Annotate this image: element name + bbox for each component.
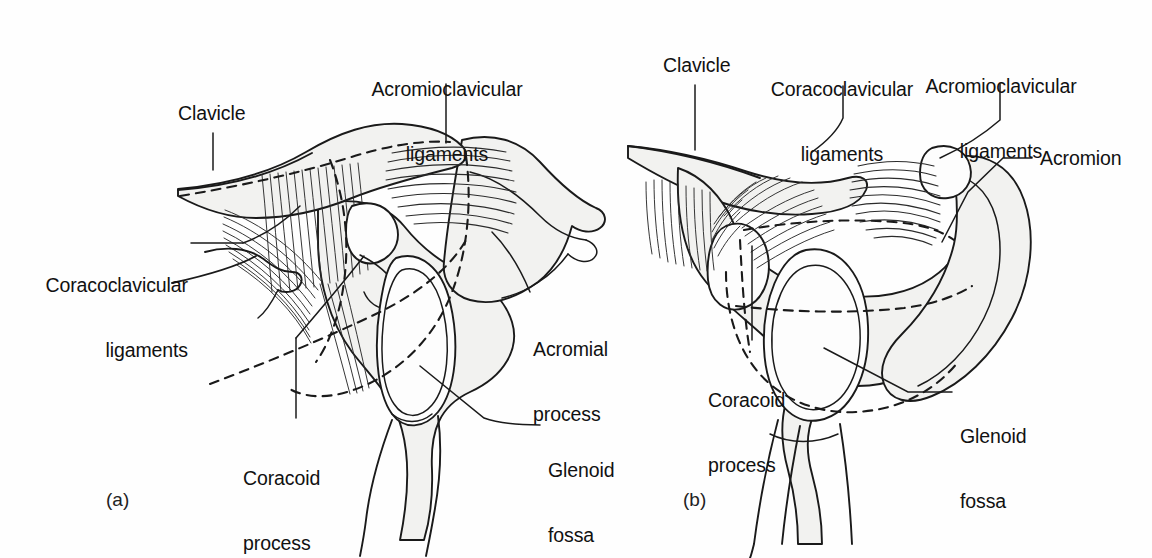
label-acromion-b: Acromion [1040, 148, 1122, 170]
coracoid-process-a [346, 203, 398, 263]
label-acromioclavicular-ligaments-b: Acromioclavicular ligaments [922, 33, 1080, 205]
label-line-1: Glenoid [960, 426, 1027, 448]
label-line-2: process [708, 455, 785, 477]
label-clavicle-b: Clavicle [663, 55, 730, 77]
label-coracoid-process-b: Coracoid process [708, 347, 785, 519]
label-line-1: Acromioclavicular [922, 76, 1080, 98]
label-line-1: Acromial [533, 339, 608, 361]
label-glenoid-fossa-a: Glenoid fossa [548, 417, 615, 558]
label-coracoclavicular-ligaments-a: Coracoclavicular ligaments [36, 232, 188, 404]
panel-tag-a: (a) [106, 489, 129, 511]
label-coracoclavicular-ligaments-b: Coracoclavicular ligaments [766, 36, 918, 208]
label-line-2: process [243, 533, 320, 555]
label-glenoid-fossa-b: Glenoid fossa [960, 383, 1027, 555]
glenoid-fossa-a [377, 256, 455, 425]
label-coracoid-process-a: Coracoid process [243, 425, 320, 558]
panel-tag-b: (b) [683, 489, 706, 511]
label-acromioclavicular-ligaments-a: Acromioclavicular ligaments [368, 36, 526, 208]
label-line-2: ligaments [36, 340, 188, 362]
anatomy-figure: .o { fill:none; stroke:#1a1a1a; stroke-w… [0, 0, 1152, 558]
label-line-1: Glenoid [548, 460, 615, 482]
label-line-1: Coracoid [708, 390, 785, 412]
label-line-2: ligaments [368, 144, 526, 166]
label-line-2: ligaments [766, 144, 918, 166]
label-line-2: fossa [960, 491, 1027, 513]
label-line-1: Coracoclavicular [36, 275, 188, 297]
label-line-1: Coracoid [243, 468, 320, 490]
label-line-1: Acromioclavicular [368, 79, 526, 101]
label-line-1: Coracoclavicular [766, 79, 918, 101]
label-clavicle-a: Clavicle [178, 103, 245, 125]
label-line-2: fossa [548, 525, 615, 547]
